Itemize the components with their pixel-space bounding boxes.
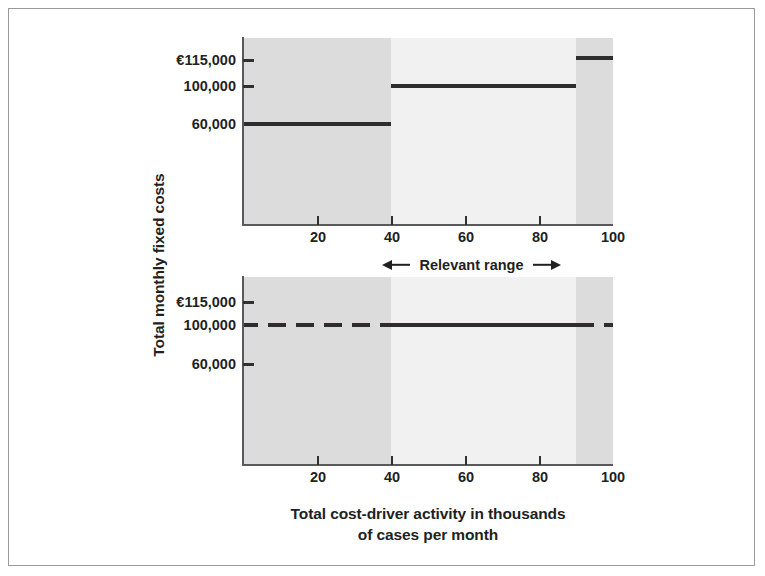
x-axis-title-line-2: of cases per month: [243, 524, 613, 545]
fixed-cost-line-solid-relevant-range: [391, 323, 577, 327]
top-x-tick-label-60: 60: [436, 229, 496, 245]
top-x-tick-80: [539, 216, 541, 225]
bottom-x-tick-60: [465, 456, 467, 465]
bottom-x-tick-label-80: 80: [510, 469, 570, 485]
bottom-y-tick-label-60000: 60,000: [126, 356, 236, 372]
top-y-tick-115000: [243, 59, 254, 62]
bottom-plot-area: [243, 277, 613, 464]
band-left-outside-range-top: [243, 38, 391, 224]
x-axis-title-line-1: Total cost-driver activity in thousands: [243, 503, 613, 524]
figure-canvas: Total monthly fixed costs 20 40 60 80 10…: [0, 0, 765, 576]
top-chart-panel: [243, 38, 613, 224]
bottom-y-tick-label-100000: 100,000: [126, 317, 236, 333]
top-y-tick-label-100000: 100,000: [126, 78, 236, 94]
band-right-outside-range-bottom: [576, 277, 613, 464]
bottom-y-tick-115000: [243, 301, 254, 304]
top-x-tick-label-100: 100: [583, 229, 643, 245]
top-x-tick-label-20: 20: [288, 229, 348, 245]
relevant-range-label: Relevant range: [417, 257, 527, 273]
top-x-axis-line: [242, 224, 613, 226]
step-segment-115000: [576, 56, 613, 60]
bottom-x-axis-line: [242, 464, 613, 466]
fixed-cost-line-dashed-right: [576, 323, 613, 327]
top-x-tick-label-40: 40: [362, 229, 422, 245]
bottom-x-tick-40: [391, 456, 393, 465]
relevant-range-left-arrow-icon: [382, 260, 410, 270]
bottom-x-tick-80: [539, 456, 541, 465]
fixed-cost-line-dashed-left: [243, 323, 392, 327]
top-y-tick-label-60000: 60,000: [126, 116, 236, 132]
top-x-tick-label-80: 80: [510, 229, 570, 245]
relevant-range-annotation: Relevant range: [391, 254, 552, 276]
bottom-x-tick-label-100: 100: [583, 469, 643, 485]
bottom-y-tick-label-115000: €115,000: [126, 294, 236, 310]
bottom-x-tick-label-40: 40: [362, 469, 422, 485]
top-x-tick-60: [465, 216, 467, 225]
top-y-tick-label-115000: €115,000: [126, 52, 236, 68]
bottom-x-tick-label-20: 20: [288, 469, 348, 485]
bottom-y-axis-line: [242, 276, 244, 465]
step-segment-100000: [391, 84, 576, 88]
top-plot-area: [243, 38, 613, 224]
band-right-outside-range-top: [576, 38, 613, 224]
bottom-x-tick-label-60: 60: [436, 469, 496, 485]
bottom-y-tick-60000: [243, 363, 254, 366]
step-segment-60000: [243, 122, 391, 126]
band-relevant-range-bottom: [391, 277, 576, 464]
x-axis-title: Total cost-driver activity in thousands …: [243, 503, 613, 545]
top-y-tick-100000: [243, 85, 254, 88]
bottom-chart-panel: [243, 277, 613, 464]
relevant-range-right-arrow-icon: [533, 260, 561, 270]
band-left-outside-range-bottom: [243, 277, 391, 464]
top-x-tick-20: [317, 216, 319, 225]
top-y-axis-line: [242, 37, 244, 225]
top-x-tick-40: [391, 216, 393, 225]
band-relevant-range-top: [391, 38, 576, 224]
bottom-x-tick-20: [317, 456, 319, 465]
